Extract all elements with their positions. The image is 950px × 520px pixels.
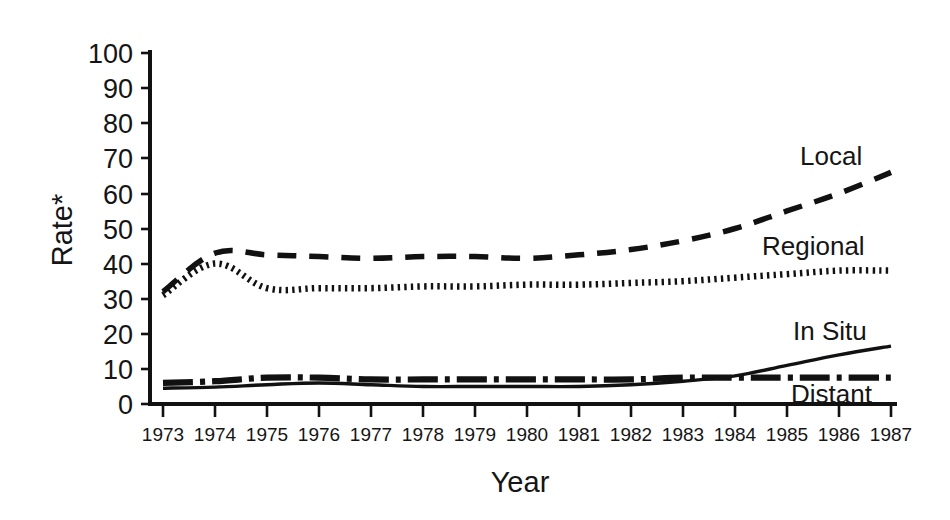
x-tick-1973: 1973 <box>142 424 184 445</box>
series-group <box>163 172 891 388</box>
y-tick-20: 20 <box>103 320 133 350</box>
x-axis-tick-labels: 1973 1974 1975 1976 1977 1978 1979 1980 … <box>142 424 912 445</box>
y-tick-30: 30 <box>103 285 133 315</box>
line-chart: Rate* 100 90 80 70 60 50 40 30 20 10 0 <box>0 0 950 520</box>
y-tick-90: 90 <box>103 74 133 104</box>
y-axis-title: Rate* <box>46 194 78 267</box>
series-label-local: Local <box>800 141 862 171</box>
x-tick-1980: 1980 <box>506 424 548 445</box>
axis-lines <box>150 52 895 404</box>
series-label-insitu: In Situ <box>793 316 867 346</box>
y-tick-50: 50 <box>103 215 133 245</box>
series-line-regional <box>163 264 891 296</box>
y-tick-0: 0 <box>118 390 133 420</box>
x-tick-1978: 1978 <box>402 424 444 445</box>
chart-canvas: Rate* 100 90 80 70 60 50 40 30 20 10 0 <box>0 0 950 520</box>
x-tick-1985: 1985 <box>766 424 808 445</box>
series-line-distant <box>163 377 891 383</box>
x-tick-1982: 1982 <box>610 424 652 445</box>
x-tick-1974: 1974 <box>194 424 237 445</box>
x-tick-1977: 1977 <box>350 424 392 445</box>
x-tick-1981: 1981 <box>558 424 600 445</box>
x-tick-1984: 1984 <box>714 424 757 445</box>
x-tick-1986: 1986 <box>818 424 860 445</box>
x-tick-1983: 1983 <box>662 424 704 445</box>
y-axis-tick-labels: 100 90 80 70 60 50 40 30 20 10 0 <box>88 39 133 420</box>
series-label-distant: Distant <box>791 379 873 409</box>
x-tick-1976: 1976 <box>298 424 340 445</box>
y-tick-70: 70 <box>103 144 133 174</box>
x-tick-1987: 1987 <box>870 424 912 445</box>
y-tick-10: 10 <box>103 355 133 385</box>
x-axis-title: Year <box>491 466 550 498</box>
y-tick-80: 80 <box>103 109 133 139</box>
y-tick-100: 100 <box>88 39 133 69</box>
x-tick-1975: 1975 <box>246 424 288 445</box>
y-tick-40: 40 <box>103 250 133 280</box>
series-label-regional: Regional <box>762 231 865 261</box>
y-axis-title-text: Rate* <box>46 194 78 267</box>
x-tick-1979: 1979 <box>454 424 496 445</box>
y-tick-60: 60 <box>103 180 133 210</box>
